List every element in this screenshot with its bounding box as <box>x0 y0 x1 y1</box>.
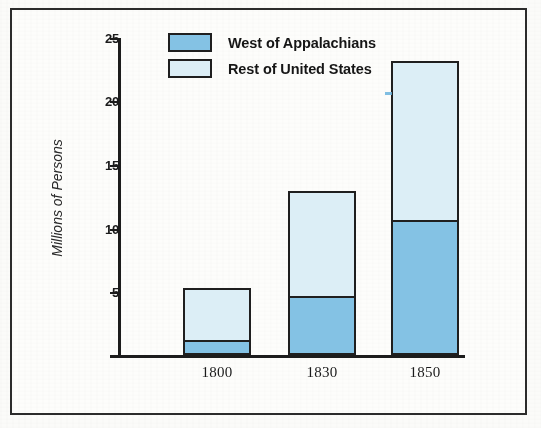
x-axis-line <box>110 355 465 358</box>
legend-label-rest-of-united-states: Rest of United States <box>228 61 372 77</box>
y-tick-label-20: 20 <box>85 94 119 109</box>
light-blue-swatch <box>168 59 212 78</box>
bar-1800 <box>183 288 251 355</box>
y-tick-label-25: 25 <box>85 31 119 46</box>
legend-item-rest-of-united-states: Rest of United States <box>168 57 376 80</box>
stacked-bar-chart: 25 20 15 10 5 Millions of Persons <box>0 0 541 428</box>
y-axis-title: Millions of Persons <box>49 113 65 283</box>
y-tick-label-5: 5 <box>85 285 119 300</box>
y-axis-line <box>118 38 121 358</box>
x-axis-label-1850: 1850 <box>385 364 465 381</box>
y-tick-label-15: 15 <box>85 158 119 173</box>
bar-1830 <box>288 191 356 355</box>
legend-item-west-of-appalachians: West of Appalachians <box>168 31 376 54</box>
legend-label-west-of-appalachians: West of Appalachians <box>228 35 376 51</box>
bar-1850-rest-of-united-states-segment <box>393 63 457 220</box>
y-tick-label-10: 10 <box>85 222 119 237</box>
bar-1830-inner <box>290 193 354 353</box>
dark-blue-swatch <box>168 33 212 52</box>
bar-1850-inner <box>393 63 457 353</box>
bar-1800-west-of-appalachians-segment <box>185 340 249 353</box>
x-axis-label-1830: 1830 <box>282 364 362 381</box>
scan-artifact-mark <box>385 92 392 95</box>
bar-1830-west-of-appalachians-segment <box>290 296 354 353</box>
bar-1830-rest-of-united-states-segment <box>290 193 354 296</box>
bar-1850-west-of-appalachians-segment <box>393 220 457 353</box>
bar-1850 <box>391 61 459 355</box>
bar-1800-inner <box>185 290 249 353</box>
chart-screenshot: 25 20 15 10 5 Millions of Persons <box>0 0 541 428</box>
bar-1800-rest-of-united-states-segment <box>185 290 249 340</box>
chart-legend: West of Appalachians Rest of United Stat… <box>168 31 376 83</box>
x-axis-label-1800: 1800 <box>177 364 257 381</box>
